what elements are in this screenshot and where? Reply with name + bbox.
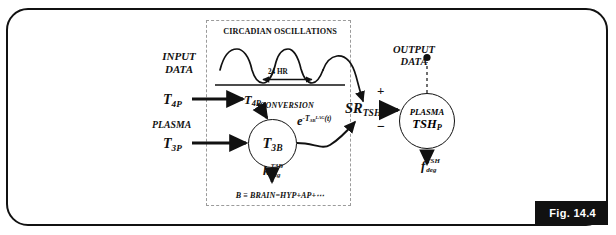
variable-k-deg-t3b: kT3Bdeg: [263, 163, 286, 179]
node-t3b-brain: T3B: [248, 119, 297, 168]
sign-positive-stimulation: +: [377, 83, 384, 99]
brain-definition-equation: B ≡ BRAIN=HYP+AP+⋯: [214, 191, 346, 200]
conversion-label: CONVERSION: [260, 101, 314, 110]
variable-t4p: T4P: [163, 92, 182, 109]
node-plasma-tsh-line2: TSHP: [412, 118, 441, 134]
figure-number-label: Fig. 14.4: [535, 201, 608, 225]
figure-canvas: CIRCADIAN OSCILLATIONS: [0, 0, 616, 235]
node-plasma-tsh: PLASMA TSHP: [399, 93, 455, 149]
plasma-input-label: PLASMA: [152, 119, 191, 130]
circadian-waveform: [220, 49, 363, 101]
output-data-label: OUTPUT DATA: [386, 44, 442, 68]
variable-sr-tsh: SRTSH: [345, 100, 381, 118]
sign-negative-feedback: −: [377, 119, 385, 135]
node-t3b-label: T3B: [262, 135, 282, 153]
variable-f-deg-tsh: fTSHdeg: [421, 158, 443, 174]
variable-t3p: T3P: [163, 136, 182, 153]
variable-exponential-lag: e-T3BLAG(t): [297, 114, 332, 129]
variable-t4b: T4B: [244, 93, 261, 108]
input-data-label: INPUT DATA: [156, 50, 202, 75]
period-24hr-label: 24 HR: [268, 68, 288, 76]
